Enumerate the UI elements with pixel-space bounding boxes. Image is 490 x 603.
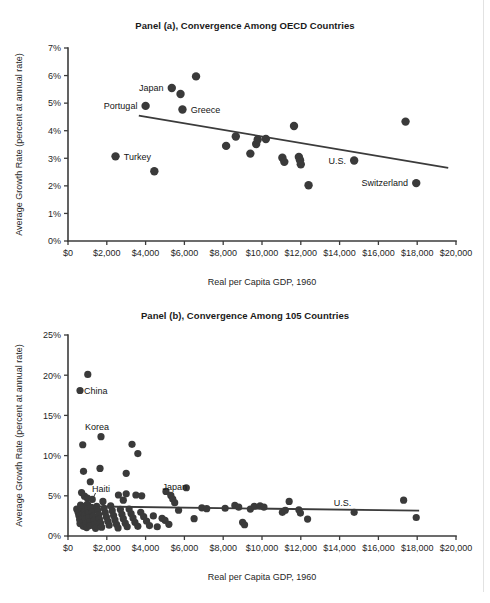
point-label: Turkey — [124, 152, 152, 162]
x-tick-label: $2,000 — [93, 248, 121, 258]
panel-a-plot: 0%1%2%3%4%5%6%7%$0$2,000$4,000$6,000$8,0… — [6, 0, 484, 300]
point-label: U.S. — [328, 156, 346, 166]
y-tick-label: 7% — [48, 43, 61, 53]
data-point — [123, 470, 130, 477]
y-tick-label: 20% — [43, 371, 61, 381]
data-point — [192, 72, 200, 80]
data-point — [222, 142, 230, 150]
point-label: Japan — [139, 83, 164, 93]
y-tick-label: 3% — [48, 154, 61, 164]
x-tick-label: $16,000 — [362, 248, 395, 258]
data-point — [203, 505, 210, 512]
y-tick-label: 15% — [43, 411, 61, 421]
data-point — [134, 523, 141, 530]
data-point — [96, 465, 103, 472]
data-point — [304, 516, 311, 523]
data-point — [99, 498, 106, 505]
y-tick-label: 4% — [48, 126, 61, 136]
data-point — [114, 524, 121, 531]
x-tick-label: $0 — [63, 248, 73, 258]
x-tick-label: $8,000 — [209, 248, 237, 258]
data-point — [165, 521, 172, 528]
data-point — [120, 497, 127, 504]
data-point — [106, 522, 113, 529]
y-tick-label: 6% — [48, 71, 61, 81]
panel-b: Panel (b), Convergence Among 105 Countri… — [6, 300, 484, 592]
data-point — [297, 509, 304, 516]
data-point — [134, 450, 141, 457]
x-tick-label: $14,000 — [323, 543, 356, 553]
y-tick-label: 1% — [48, 209, 61, 219]
data-point — [262, 135, 270, 143]
data-point — [350, 156, 358, 164]
data-point — [222, 505, 229, 512]
x-tick-label: $20,000 — [440, 543, 473, 553]
x-axis-title: Real per Capita GDP, 1960 — [208, 572, 316, 582]
data-point — [178, 105, 186, 113]
annotation-label: Haiti — [92, 484, 110, 494]
y-tick-label: 5% — [48, 98, 61, 108]
x-tick-label: $2,000 — [93, 543, 121, 553]
x-tick-label: $10,000 — [246, 248, 279, 258]
data-point — [232, 132, 240, 140]
x-tick-label: $14,000 — [323, 248, 356, 258]
data-point — [413, 514, 420, 521]
x-axis-title: Real per Capita GDP, 1960 — [208, 277, 316, 287]
data-point — [401, 117, 409, 125]
y-tick-label: 10% — [43, 451, 61, 461]
x-tick-label: $18,000 — [401, 248, 434, 258]
data-point — [412, 179, 420, 187]
data-point — [246, 149, 254, 157]
x-tick-label: $16,000 — [362, 543, 395, 553]
y-tick-label: 0% — [48, 236, 61, 246]
data-point — [282, 507, 289, 514]
panel-b-point-labels: ChinaKoreaHaitiJapanU.S. — [84, 386, 351, 508]
point-label: Switzerland — [361, 178, 408, 188]
y-tick-label: 0% — [48, 531, 61, 541]
data-point — [141, 102, 149, 110]
x-tick-label: $6,000 — [171, 248, 199, 258]
x-tick-label: $12,000 — [285, 248, 318, 258]
data-point — [124, 523, 131, 530]
data-point — [84, 371, 91, 378]
y-tick-label: 5% — [48, 491, 61, 501]
panel-a-tick-labels: 0%1%2%3%4%5%6%7%$0$2,000$4,000$6,000$8,0… — [48, 43, 472, 258]
data-point — [175, 507, 182, 514]
data-point — [123, 490, 130, 497]
data-point — [79, 441, 86, 448]
panel-a: Panel (a), Convergence Among OECD Countr… — [6, 0, 484, 300]
x-tick-label: $6,000 — [171, 543, 199, 553]
data-point — [191, 515, 198, 522]
x-tick-label: $4,000 — [132, 543, 160, 553]
annotation-label: Japan — [162, 482, 187, 492]
x-tick-label: $0 — [63, 543, 73, 553]
data-point — [235, 503, 242, 510]
y-axis-title: Average Growth Rate (percent at annual r… — [14, 53, 24, 235]
x-tick-label: $4,000 — [132, 248, 160, 258]
data-point — [290, 122, 298, 130]
x-tick-label: $8,000 — [209, 543, 237, 553]
paper-sheet: Panel (a), Convergence Among OECD Countr… — [6, 0, 484, 592]
data-point — [304, 181, 312, 189]
annotation-label: Korea — [85, 422, 109, 432]
y-axis-title: Average Growth Rate (percent at annual r… — [14, 344, 24, 526]
data-point — [150, 167, 158, 175]
data-point — [280, 158, 288, 166]
data-point — [111, 152, 119, 160]
annotation-label: China — [84, 386, 108, 396]
data-point — [297, 160, 305, 168]
data-point — [98, 524, 105, 531]
data-point — [176, 90, 184, 98]
data-point — [286, 498, 293, 505]
data-point — [400, 497, 407, 504]
data-point — [154, 523, 161, 530]
point-label: Greece — [191, 105, 221, 115]
data-point — [92, 525, 99, 532]
data-point — [241, 521, 248, 528]
point-label: Portugal — [104, 101, 138, 111]
figure-page: Panel (a), Convergence Among OECD Countr… — [0, 0, 490, 603]
annotation-label: U.S. — [334, 498, 352, 508]
x-tick-label: $12,000 — [285, 543, 318, 553]
data-point — [260, 503, 267, 510]
data-point — [146, 522, 153, 529]
